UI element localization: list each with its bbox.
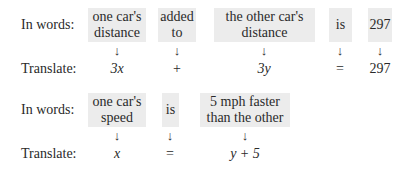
translation-3x: 3x [97, 61, 137, 77]
translate-label: Translate: [21, 146, 76, 162]
translation-y-plus-5: y + 5 [220, 146, 270, 162]
translate-label: Translate: [21, 61, 76, 77]
phrase-line: to [172, 25, 183, 41]
translation-x: x [97, 146, 137, 162]
phrase-box-added-to: added to [158, 8, 196, 42]
phrase-box-other-cars-distance: the other car's distance [214, 8, 315, 42]
phrase-box-is: is [162, 93, 179, 127]
phrase-box-5mph-faster: 5 mph faster than the other [200, 93, 290, 127]
translation-equals: = [330, 61, 350, 77]
down-arrow-icon: ↓ [235, 129, 255, 142]
translation-plus: + [167, 61, 187, 77]
phrase-box-one-cars-speed: one car's speed [88, 93, 146, 127]
phrase-line: distance [94, 25, 140, 41]
phrase-box-one-cars-distance: one car's distance [88, 8, 146, 42]
down-arrow-icon: ↓ [370, 44, 390, 57]
phrase-line: than the other [207, 110, 284, 126]
in-words-label: In words: [21, 17, 74, 33]
in-words-label: In words: [21, 102, 74, 118]
down-arrow-icon: ↓ [107, 129, 127, 142]
phrase-line: is [336, 17, 345, 33]
phrase-line: the other car's [226, 9, 304, 25]
down-arrow-icon: ↓ [254, 44, 274, 57]
down-arrow-icon: ↓ [330, 44, 350, 57]
phrase-line: speed [101, 110, 133, 126]
phrase-line: distance [242, 25, 288, 41]
down-arrow-icon: ↓ [107, 44, 127, 57]
phrase-line: added [160, 9, 193, 25]
phrase-line: one car's [93, 9, 142, 25]
phrase-line: 5 mph faster [210, 94, 280, 110]
translation-3y: 3y [244, 61, 284, 77]
translation-297: 297 [365, 61, 395, 77]
phrase-line: 297 [370, 17, 391, 33]
phrase-line: is [166, 102, 175, 118]
phrase-line: one car's [93, 94, 142, 110]
down-arrow-icon: ↓ [167, 44, 187, 57]
down-arrow-icon: ↓ [160, 129, 180, 142]
translation-equals: = [160, 146, 180, 162]
phrase-box-is: is [329, 8, 352, 42]
phrase-box-297: 297 [368, 8, 392, 42]
